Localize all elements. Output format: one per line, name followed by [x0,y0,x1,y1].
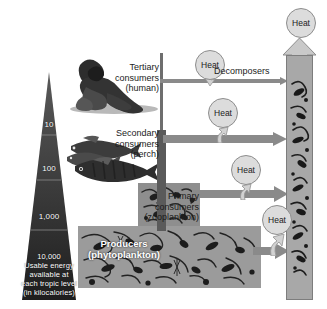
label-secondary-line-2: consumers [115,139,159,150]
decomposer-column [286,55,313,300]
label-tertiary-consumers: Tertiary consumers (human) [115,62,159,94]
tertiary-stem [160,53,163,133]
label-producers-line-2: (phytoplankton) [82,249,166,260]
heat-tail-secondary [214,127,232,147]
heat-bubble-producer-flow: Heat [262,205,292,235]
heat-tail-producers [268,234,288,260]
heat-bubble-top: Heat [286,8,316,38]
label-tertiary-line-1: Tertiary [115,62,159,73]
pyramid-level-value-tertiary: 10 [6,120,92,130]
heat-tail-primary [237,184,255,204]
label-secondary-consumers: Secondary consumers (perch) [115,128,159,160]
label-primary-line-1: Primary [144,191,199,202]
label-secondary-line-1: Secondary [115,128,159,139]
label-primary-consumers: Primary consumers (zooplankton) [144,191,199,223]
heat-bubble-primary-flow: Heat [231,155,261,185]
label-secondary-line-3: (perch) [115,149,159,160]
label-tertiary-line-2: consumers [115,73,159,84]
label-producers: Producers (phytoplankton) [82,238,166,260]
heat-bubble-secondary-flow: Heat [208,98,238,128]
label-tertiary-line-3: (human) [115,83,159,94]
label-producers-line-1: Producers [82,238,166,249]
pyramid-caption-line-5: (in kilocalories) [6,288,92,297]
decomposer-flow-arrow-tertiary [160,77,288,85]
label-primary-line-2: consumers [144,202,199,213]
energy-pyramid-diagram: 10 100 1,000 10,000 Usable energy availa… [0,0,327,309]
pyramid-level-value-primary: 1,000 [6,212,92,222]
label-decomposers: Decomposers [214,66,270,76]
label-primary-line-3: (zooplankton) [144,212,199,223]
